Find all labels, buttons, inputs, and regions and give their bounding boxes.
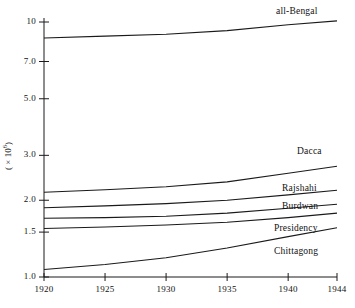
y-axis-tick-label: 1.5 — [4, 226, 36, 236]
chart-axes — [44, 18, 337, 277]
x-axis-tick-label: 1925 — [85, 284, 125, 294]
series-line-all-bengal — [44, 21, 337, 38]
y-axis-tick-label: 5.0 — [4, 93, 36, 103]
x-axis-tick-label: 1935 — [207, 284, 247, 294]
chart-figure: ( × 106) 1.01.52.03.05.07.010 1920192519… — [0, 0, 355, 308]
series-label-all-bengal: all-Bengal — [276, 6, 318, 16]
x-axis-tick-label: 1944 — [317, 284, 355, 294]
y-axis-tick-label: 1.0 — [4, 271, 36, 281]
y-axis-tick-label: 3.0 — [4, 149, 36, 159]
x-axis-tick-label: 1920 — [24, 284, 64, 294]
series-label-burdwan: Burdwan — [282, 201, 318, 211]
y-axis-tick-label: 7.0 — [4, 56, 36, 66]
series-label-dacca: Dacca — [297, 146, 322, 156]
series-label-chittagong: Chittagong — [274, 246, 318, 256]
y-axis-tick-label: 2.0 — [4, 194, 36, 204]
y-axis-title-exponent: 6 — [1, 145, 8, 148]
series-label-rajshahi: Rajshahi — [282, 183, 317, 193]
x-axis-tick-label: 1940 — [268, 284, 308, 294]
x-axis-tick-label: 1930 — [146, 284, 186, 294]
series-label-presidency: Presidency — [274, 223, 318, 233]
y-axis-tick-label: 10 — [4, 16, 36, 26]
